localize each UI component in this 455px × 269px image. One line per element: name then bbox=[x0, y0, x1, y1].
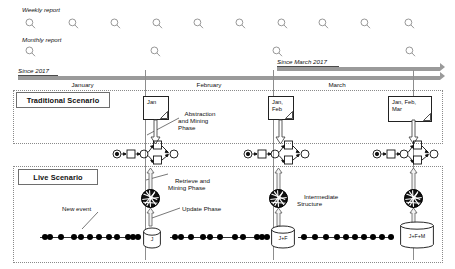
event-dot-2-7 bbox=[370, 234, 376, 240]
event-dot-0-6 bbox=[96, 234, 102, 240]
event-dot-1-2 bbox=[188, 234, 194, 240]
weekly-report-search-icon-6[interactable] bbox=[277, 18, 287, 28]
note-fold-corner-icon-2 bbox=[423, 113, 430, 120]
event-dot-1-5 bbox=[217, 234, 223, 240]
retrieve-mining-phase-label: Retrieve and Mining Phase bbox=[168, 170, 210, 199]
event-dot-0-5 bbox=[87, 234, 93, 240]
event-dot-2-2 bbox=[323, 234, 329, 240]
intermediate-structure-blob-1 bbox=[269, 189, 288, 208]
event-dot-0-8 bbox=[114, 234, 120, 240]
since-march-2017-bar bbox=[277, 67, 440, 71]
event-dot-2-0 bbox=[301, 234, 307, 240]
since-march-2017-label: Since March 2017 bbox=[277, 58, 327, 65]
event-dot-1-6 bbox=[232, 234, 238, 240]
event-dot-1-7 bbox=[240, 234, 246, 240]
event-store-cylinder-0: J bbox=[143, 228, 161, 248]
traditional-log-note-1: Jan, Feb bbox=[268, 96, 294, 120]
event-dot-2-4 bbox=[343, 234, 349, 240]
event-dot-0-2 bbox=[58, 234, 64, 240]
intermediate-structure-blob-2 bbox=[404, 189, 423, 208]
new-event-callout-line bbox=[80, 212, 100, 230]
petri-net-model-1 bbox=[243, 140, 315, 164]
update-phase-arrow-1 bbox=[275, 208, 282, 226]
since-march-2017-arrowhead bbox=[440, 63, 445, 71]
event-dot-2-8 bbox=[379, 234, 385, 240]
month-label-march: March bbox=[273, 81, 401, 88]
retrieve-mining-phase-text: Retrieve and Mining Phase bbox=[168, 177, 210, 191]
petri-net-model-0 bbox=[112, 140, 184, 164]
figure-canvas: Weekly report Monthly report Since March… bbox=[0, 0, 455, 269]
event-store-label-0: J bbox=[143, 236, 161, 242]
traditional-log-note-text-1: Jan, Feb bbox=[272, 99, 283, 112]
weekly-report-search-icon-2[interactable] bbox=[110, 18, 120, 28]
weekly-report-search-icon-3[interactable] bbox=[152, 18, 162, 28]
event-dot-0-1 bbox=[47, 234, 53, 240]
event-store-label-2: J+F+M bbox=[400, 233, 434, 239]
weekly-report-search-icon-0[interactable] bbox=[25, 18, 35, 28]
event-dot-2-9 bbox=[388, 234, 394, 240]
intermediate-structure-label: Intermediate Structure bbox=[297, 186, 338, 215]
intermediate-structure-text: Intermediate Structure bbox=[297, 193, 338, 207]
event-dot-2-5 bbox=[352, 234, 358, 240]
update-phase-arrow-0 bbox=[147, 208, 154, 226]
monthly-report-search-icon-1[interactable] bbox=[150, 46, 160, 56]
weekly-report-search-icon-7[interactable] bbox=[318, 18, 328, 28]
monthly-report-search-icon-2[interactable] bbox=[272, 46, 282, 56]
event-dot-2-3 bbox=[334, 234, 340, 240]
since-2017-arrowhead bbox=[440, 72, 445, 80]
event-dot-1-4 bbox=[207, 234, 213, 240]
live-scenario-title: Live Scenario bbox=[18, 169, 98, 185]
weekly-report-search-icon-4[interactable] bbox=[193, 18, 203, 28]
event-dot-2-1 bbox=[312, 234, 318, 240]
weekly-report-search-icon-9[interactable] bbox=[404, 18, 414, 28]
event-dot-2-6 bbox=[361, 234, 367, 240]
traditional-log-note-text-0: Jan bbox=[147, 99, 156, 105]
monthly-report-search-icon-3[interactable] bbox=[405, 46, 415, 56]
traditional-log-note-text-2: Jan, Feb, Mar bbox=[392, 99, 416, 112]
traditional-log-note-2: Jan, Feb, Mar bbox=[388, 96, 432, 122]
event-dot-0-7 bbox=[106, 234, 112, 240]
traditional-scenario-title: Traditional Scenario bbox=[16, 92, 110, 108]
event-dot-0-3 bbox=[71, 234, 77, 240]
month-label-january: January bbox=[20, 81, 145, 88]
month-label-february: February bbox=[145, 81, 273, 88]
event-dot-0-11 bbox=[135, 234, 141, 240]
weekly-report-search-icon-5[interactable] bbox=[235, 18, 245, 28]
event-store-cylinder-2: J+F+M bbox=[400, 222, 434, 248]
monthly-report-search-icon-0[interactable] bbox=[25, 46, 35, 56]
event-dot-0-4 bbox=[78, 234, 84, 240]
weekly-report-label: Weekly report bbox=[22, 6, 60, 13]
weekly-report-search-icon-1[interactable] bbox=[68, 18, 78, 28]
intermediate-structure-blob-0 bbox=[141, 189, 160, 208]
petri-net-model-2 bbox=[372, 140, 444, 164]
since-2017-bar bbox=[18, 76, 440, 80]
update-phase-label: Update Phase bbox=[182, 205, 221, 212]
since-2017-label: Since 2017 bbox=[18, 67, 49, 74]
weekly-report-search-icon-8[interactable] bbox=[360, 18, 370, 28]
event-dot-1-10 bbox=[264, 234, 270, 240]
monthly-report-label: Monthly report bbox=[22, 36, 62, 43]
event-dot-1-3 bbox=[200, 234, 206, 240]
event-store-label-1: J+F bbox=[271, 235, 295, 241]
note-fold-corner-icon-1 bbox=[285, 111, 292, 118]
event-dot-1-1 bbox=[178, 234, 184, 240]
event-store-cylinder-1: J+F bbox=[271, 226, 295, 248]
